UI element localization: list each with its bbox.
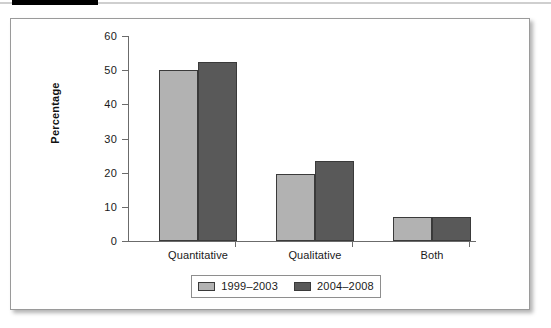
bar-quantitative-1999-2003 <box>159 70 198 241</box>
y-tick-label-20: 20 <box>89 168 117 179</box>
bar-both-2004-2008 <box>432 217 471 241</box>
y-tick-50 <box>122 70 128 71</box>
y-tick-label-60: 60 <box>89 31 117 42</box>
y-tick-label-30: 30 <box>89 134 117 145</box>
y-tick-20 <box>122 173 128 174</box>
bar-qualitative-2004-2008 <box>315 161 354 241</box>
y-tick-60 <box>122 36 128 37</box>
y-axis-line <box>128 36 129 242</box>
y-tick-10 <box>122 207 128 208</box>
legend-entry-2004-2008: 2004–2008 <box>294 281 374 292</box>
x-tick-1 <box>235 242 236 247</box>
x-tick-2 <box>352 242 353 247</box>
page-tab-marker <box>12 0 98 5</box>
x-axis-line <box>128 241 476 242</box>
legend-swatch-icon-1999-2003 <box>198 282 215 291</box>
y-axis-title: Percentage <box>49 53 61 173</box>
y-tick-label-40: 40 <box>89 99 117 110</box>
x-category-label-qualitative: Qualitative <box>255 249 375 261</box>
y-tick-40 <box>122 104 128 105</box>
y-tick-30 <box>122 139 128 140</box>
legend-label-1999-2003: 1999–2003 <box>221 281 278 292</box>
x-category-label-quantitative: Quantitative <box>138 249 258 261</box>
legend-label-2004-2008: 2004–2008 <box>317 281 374 292</box>
y-tick-label-0: 0 <box>89 236 117 247</box>
bar-chart: Percentage 60 50 40 30 20 10 0 <box>11 19 531 311</box>
y-tick-0 <box>122 241 128 242</box>
bar-quantitative-2004-2008 <box>198 62 237 241</box>
figure-frame: Percentage 60 50 40 30 20 10 0 <box>10 18 530 310</box>
y-tick-label-50: 50 <box>89 65 117 76</box>
x-category-label-both: Both <box>372 249 492 261</box>
chart-legend: 1999–2003 2004–2008 <box>191 275 381 298</box>
bar-qualitative-1999-2003 <box>276 174 315 241</box>
y-tick-label-10: 10 <box>89 202 117 213</box>
bar-both-1999-2003 <box>393 217 432 241</box>
legend-entry-1999-2003: 1999–2003 <box>198 281 278 292</box>
legend-swatch-icon-2004-2008 <box>294 282 311 291</box>
x-tick-3 <box>469 242 470 247</box>
